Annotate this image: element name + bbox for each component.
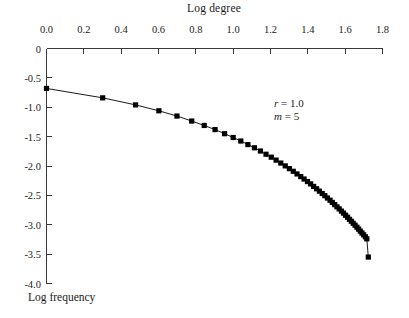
annotation-m-symbol: m (274, 110, 282, 122)
x-tick-label: 1.8 (376, 24, 389, 35)
data-point-marker (263, 152, 268, 157)
y-tick-label: -0.5 (0, 72, 41, 83)
data-point-marker (212, 127, 217, 132)
data-point-marker (278, 160, 283, 165)
data-point-marker (274, 158, 279, 163)
x-tick-label: 1.2 (264, 24, 277, 35)
x-tick-label: 1.0 (227, 24, 240, 35)
series-line (47, 88, 369, 257)
data-point-marker (222, 131, 227, 136)
data-point-marker (174, 113, 179, 118)
data-point-marker (100, 95, 105, 100)
data-series (44, 86, 371, 260)
annotation-m-equals: = (282, 110, 294, 122)
x-axis-ticks (47, 49, 383, 54)
data-point-marker (231, 135, 236, 140)
data-point-marker (238, 138, 243, 143)
axis-spines (47, 49, 383, 284)
data-point-marker (245, 142, 250, 147)
data-point-marker (189, 118, 194, 123)
data-point-marker (156, 108, 161, 113)
y-tick-label: -1.0 (0, 102, 41, 113)
y-tick-label: -2.0 (0, 161, 41, 172)
x-tick-label: 0.2 (77, 24, 90, 35)
x-tick-label: 1.6 (339, 24, 352, 35)
annotation-r: r = 1.0 (274, 97, 304, 109)
y-axis-label: Log frequency (28, 291, 95, 303)
y-tick-label: -3.5 (0, 249, 41, 260)
x-tick-label: 0.8 (189, 24, 202, 35)
data-point-marker (44, 86, 49, 91)
x-tick-label: 1.4 (301, 24, 314, 35)
y-tick-label: -2.5 (0, 190, 41, 201)
annotation-m-value: 5 (294, 110, 300, 122)
annotation-r-value: 1.0 (290, 97, 304, 109)
data-point-marker (202, 123, 207, 128)
data-point-marker (269, 155, 274, 160)
figure: Log degree Log frequency r = 1.0 m = 5 0… (0, 0, 409, 318)
data-point-marker (258, 148, 263, 153)
data-point-marker (133, 102, 138, 107)
plot-canvas (0, 0, 409, 318)
y-tick-label: -1.5 (0, 131, 41, 142)
x-tick-label: 0.4 (115, 24, 128, 35)
y-tick-label: -3.0 (0, 219, 41, 230)
data-point-marker (252, 145, 257, 150)
y-tick-label: -4.0 (0, 278, 41, 289)
annotation-m: m = 5 (274, 110, 299, 122)
annotation-r-equals: = (278, 97, 290, 109)
y-axis-ticks (47, 49, 52, 284)
x-tick-label: 0.6 (152, 24, 165, 35)
y-tick-label: 0 (0, 43, 41, 54)
x-tick-label: 0.0 (40, 24, 53, 35)
data-point-marker (366, 254, 371, 259)
data-point-marker (364, 236, 369, 241)
